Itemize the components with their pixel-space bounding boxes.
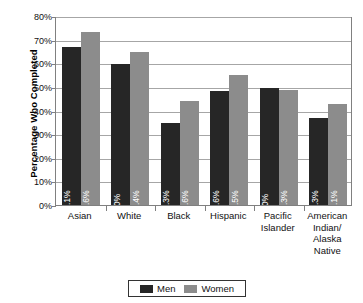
- x-axis-category-line: Pacific: [253, 210, 303, 222]
- y-axis-tick-label: 0%: [39, 201, 52, 211]
- bar-value-label: 65.4%: [131, 190, 140, 206]
- bar-men: 60%: [111, 64, 130, 206]
- y-axis-tick-label: 50%: [34, 83, 52, 93]
- legend-label-women: Women: [201, 283, 234, 294]
- legend-label-men: Men: [157, 283, 175, 294]
- bar-chart: Percentage Who Completed 0%10%20%30%40%5…: [0, 0, 363, 303]
- x-axis-category-line: Black: [154, 210, 204, 222]
- chart-legend: Men Women: [128, 280, 246, 297]
- x-axis-category-line: American: [303, 210, 353, 222]
- legend-item-men: Men: [140, 283, 175, 294]
- y-axis-tick-mark: [52, 206, 56, 207]
- x-axis-category-line: Native: [303, 245, 353, 257]
- bar-value-label: 43.1%: [329, 190, 338, 206]
- x-axis-category-label: Hispanic: [204, 210, 254, 222]
- bar-women: 55.5%: [229, 75, 248, 206]
- bar-women: 65.4%: [130, 52, 149, 207]
- x-axis-labels: AsianWhiteBlackHispanicPacificIslanderAm…: [55, 210, 352, 268]
- x-axis-category-label: PacificIslander: [253, 210, 303, 233]
- y-axis-tick-label: 10%: [34, 177, 52, 187]
- bar-value-label: 48.6%: [211, 190, 220, 206]
- bar-group: 37.3%43.1%: [304, 17, 354, 206]
- x-axis-category-line: Islander: [253, 222, 303, 234]
- legend-swatch-women: [184, 285, 197, 293]
- y-axis-tick-label: 70%: [34, 36, 52, 46]
- x-axis-category-line: Asian: [55, 210, 105, 222]
- bar-value-label: 35.3%: [162, 190, 171, 206]
- plot-area: 0%10%20%30%40%50%60%70%80% 67.1%73.6%60%…: [55, 17, 352, 206]
- bar-women: 49.3%: [279, 90, 298, 206]
- bar-women: 43.1%: [328, 104, 347, 206]
- bar-value-label: 44.6%: [181, 190, 190, 206]
- bar-group: 48.6%55.5%: [205, 17, 255, 206]
- bar-value-label: 55.5%: [230, 190, 239, 206]
- bar-group: 60%65.4%: [106, 17, 156, 206]
- y-axis-tick-label: 20%: [34, 154, 52, 164]
- bar-group: 50%49.3%: [254, 17, 304, 206]
- bar-value-label: 67.1%: [63, 190, 72, 206]
- x-axis-category-line: Hispanic: [204, 210, 254, 222]
- x-axis-category-label: White: [105, 210, 155, 222]
- legend-swatch-men: [140, 285, 153, 293]
- legend-item-women: Women: [184, 283, 234, 294]
- bar-men: 48.6%: [210, 91, 229, 206]
- x-axis-category-label: Asian: [55, 210, 105, 222]
- x-axis-category-line: Indian/: [303, 222, 353, 234]
- bar-women: 73.6%: [81, 32, 100, 206]
- y-axis-tick-label: 60%: [34, 59, 52, 69]
- bar-value-label: 37.3%: [310, 190, 319, 206]
- bar-group: 35.3%44.6%: [155, 17, 205, 206]
- y-axis-tick-label: 30%: [34, 130, 52, 140]
- bar-women: 44.6%: [180, 101, 199, 206]
- bar-value-label: 73.6%: [82, 190, 91, 206]
- x-axis-category-line: White: [105, 210, 155, 222]
- bar-men: 37.3%: [309, 118, 328, 206]
- bar-group: 67.1%73.6%: [56, 17, 106, 206]
- x-axis-line: [56, 205, 351, 206]
- bar-men: 67.1%: [62, 47, 81, 206]
- bar-series-container: 67.1%73.6%60%65.4%35.3%44.6%48.6%55.5%50…: [56, 17, 351, 206]
- y-axis-tick-label: 80%: [34, 12, 52, 22]
- x-axis-category-label: Black: [154, 210, 204, 222]
- bar-men: 35.3%: [161, 123, 180, 206]
- y-axis-tick-label: 40%: [34, 107, 52, 117]
- x-axis-category-line: Alaska: [303, 233, 353, 245]
- x-axis-category-label: AmericanIndian/AlaskaNative: [303, 210, 353, 256]
- bar-value-label: 49.3%: [280, 190, 289, 206]
- bar-men: 50%: [260, 88, 279, 206]
